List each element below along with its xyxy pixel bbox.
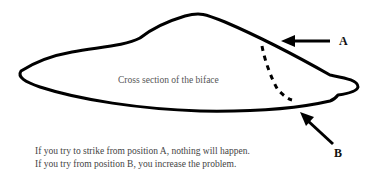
arrow-a-icon (281, 35, 330, 47)
caption-line-2: If you try from position B, you increase… (35, 158, 250, 171)
marker-a: A (339, 34, 348, 49)
caption-line-1: If you try to strike from position A, no… (35, 145, 250, 158)
shape-label: Cross section of the biface (118, 75, 219, 85)
marker-b: B (334, 146, 342, 161)
caption: If you try to strike from position A, no… (35, 145, 250, 171)
fracture-dashed-line (262, 46, 292, 100)
arrow-b-icon (300, 112, 333, 144)
biface-outline (20, 14, 358, 111)
